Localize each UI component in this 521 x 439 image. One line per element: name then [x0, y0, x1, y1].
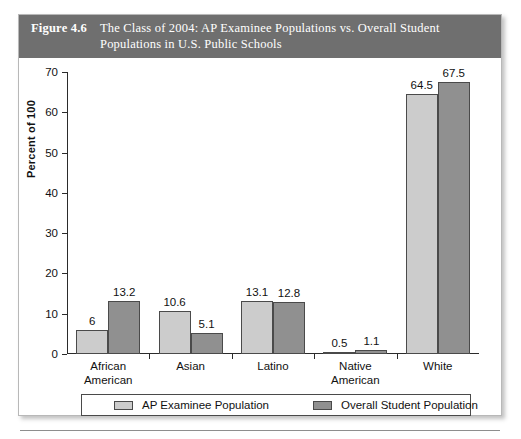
- x-category-label-line: African: [84, 359, 133, 373]
- bar-group: 13.112.8Latino: [232, 72, 314, 354]
- x-category-label-line: Asian: [176, 359, 205, 373]
- bar-value-label: 6: [89, 315, 95, 327]
- x-tick-mark: [314, 354, 315, 359]
- bar-overall-student: [355, 350, 387, 354]
- bar-ap-examinee: [406, 94, 438, 354]
- legend-swatch-icon-light: [114, 401, 133, 410]
- bar-value-label: 5.1: [199, 318, 215, 330]
- y-tick-label: 50: [45, 147, 58, 159]
- x-category-label-line: American: [331, 373, 380, 387]
- x-category-label: White: [423, 359, 452, 373]
- y-tick-label: 40: [45, 187, 58, 199]
- figure-screenshot: Figure 4.6 The Class of 2004: AP Examine…: [0, 0, 521, 439]
- x-tick-mark: [149, 354, 150, 359]
- bar-ap-examinee: [159, 311, 191, 354]
- bar-group: 613.2AfricanAmerican: [67, 72, 149, 354]
- y-tick-mark: [62, 354, 67, 355]
- bar-ap-examinee: [323, 352, 355, 354]
- bar-overall-student: [108, 301, 140, 354]
- figure-card: Figure 4.6 The Class of 2004: AP Examine…: [18, 14, 502, 416]
- plot-area: Percent of 100 010203040506070 613.2Afri…: [19, 58, 503, 417]
- y-tick-label: 70: [45, 66, 58, 78]
- y-tick-label: 0: [52, 348, 58, 360]
- bar-ap-examinee: [241, 301, 273, 354]
- figure-number: Figure 4.6: [31, 20, 87, 36]
- figure-title-line-2: Populations in U.S. Public Schools: [100, 36, 491, 52]
- bar-ap-examinee: [76, 330, 108, 354]
- figure-header-line-1: Figure 4.6 The Class of 2004: AP Examine…: [31, 20, 491, 36]
- x-category-label: Asian: [176, 359, 205, 373]
- bar-value-label: 13.2: [113, 286, 135, 298]
- plot-canvas: 010203040506070 613.2AfricanAmerican10.6…: [67, 72, 479, 354]
- x-category-label-line: White: [423, 359, 452, 373]
- y-tick-label: 20: [45, 267, 58, 279]
- bar-value-label: 1.1: [363, 335, 379, 347]
- legend-item-overall-student-population: Overall Student Population: [313, 399, 478, 411]
- bar-value-label: 0.5: [331, 337, 347, 349]
- chart-legend: AP Examinee Population Overall Student P…: [81, 394, 471, 416]
- legend-swatch-icon-dark: [313, 401, 332, 410]
- bar-overall-student: [438, 82, 470, 354]
- bar-value-label: 12.8: [278, 287, 300, 299]
- x-category-label: NativeAmerican: [331, 359, 380, 387]
- bar-group: 64.567.5White: [397, 72, 479, 354]
- x-category-label-line: Latino: [257, 359, 288, 373]
- bar-group: 0.51.1NativeAmerican: [314, 72, 396, 354]
- x-category-label: AfricanAmerican: [84, 359, 133, 387]
- x-category-label: Latino: [257, 359, 288, 373]
- bar-value-label: 67.5: [443, 67, 465, 79]
- y-tick-label: 10: [45, 308, 58, 320]
- legend-label-series-1: AP Examinee Population: [142, 399, 269, 411]
- figure-title-line-1: The Class of 2004: AP Examinee Populatio…: [100, 20, 440, 36]
- bar-groups: 613.2AfricanAmerican10.65.1Asian13.112.8…: [67, 72, 479, 354]
- bar-value-label: 64.5: [411, 79, 433, 91]
- page-divider-rule: [20, 430, 500, 431]
- bar-value-label: 13.1: [246, 286, 268, 298]
- legend-label-series-2: Overall Student Population: [341, 399, 478, 411]
- bar-overall-student: [273, 302, 305, 354]
- bar-overall-student: [191, 333, 223, 354]
- bar-group: 10.65.1Asian: [149, 72, 231, 354]
- y-tick-label: 60: [45, 106, 58, 118]
- y-tick-label: 30: [45, 227, 58, 239]
- figure-header-band: Figure 4.6 The Class of 2004: AP Examine…: [19, 15, 501, 58]
- x-category-label-line: Native: [331, 359, 380, 373]
- x-tick-mark: [397, 354, 398, 359]
- x-tick-mark: [232, 354, 233, 359]
- bar-value-label: 10.6: [163, 296, 185, 308]
- legend-item-ap-examinee-population: AP Examinee Population: [114, 399, 269, 411]
- y-axis-label: Percent of 100: [25, 100, 37, 178]
- x-category-label-line: American: [84, 373, 133, 387]
